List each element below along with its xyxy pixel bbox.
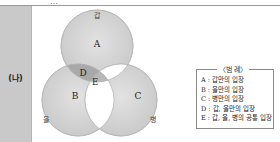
circle-label-byeong: 병: [150, 115, 156, 124]
region-label-a: A: [93, 39, 101, 49]
legend-box: 〈범 례〉 A : 갑만의 입장 B : 을만의 입장 C : 병만의 입장 D…: [196, 69, 274, 129]
legend-item: A : 갑만의 입장: [201, 76, 273, 86]
circle-label-eul: 을: [43, 116, 50, 124]
venn-diagram: 갑 을 병 A B C D E: [31, 6, 196, 142]
region-label-e: E: [92, 77, 98, 87]
region-label-d: D: [79, 68, 86, 78]
legend-title: 〈범 례〉: [217, 64, 249, 74]
legend-item: D : 갑, 을만의 입장: [201, 105, 273, 115]
region-label-b: B: [72, 91, 79, 101]
region-label-c: C: [135, 91, 142, 101]
legend-item: B : 을만의 입장: [201, 86, 273, 96]
side-panel: (나): [0, 6, 32, 142]
legend-list: A : 갑만의 입장 B : 을만의 입장 C : 병만의 입장 D : 갑, …: [197, 70, 273, 124]
legend-item: E : 갑, 을, 병의 공통 입장: [201, 114, 273, 124]
circle-label-gap: 갑: [94, 12, 101, 20]
section-label: (나): [0, 72, 31, 83]
legend-item: C : 병만의 입장: [201, 95, 273, 105]
